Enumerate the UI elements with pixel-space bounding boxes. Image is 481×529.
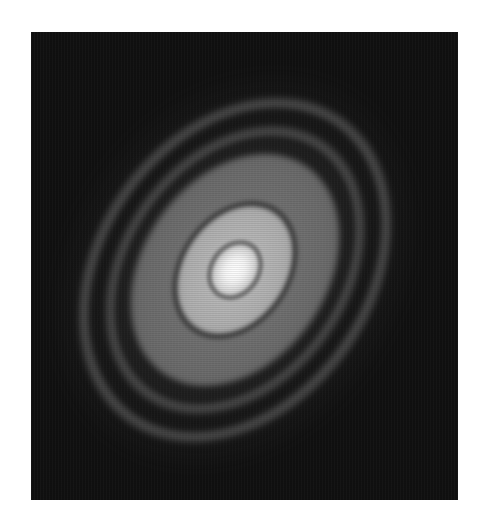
disk-image: [31, 32, 458, 500]
